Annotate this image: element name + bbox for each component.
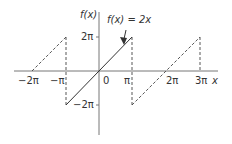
x-tick-label: π <box>124 75 130 86</box>
x-axis-label: x <box>211 75 218 86</box>
function-graph: f(x) = 2x f(x) x −2π −π 0 π 2π 3π 2π −2π <box>0 0 232 144</box>
x-tick-label: 2π <box>166 75 178 86</box>
function-label: f(x) = 2x <box>107 14 151 25</box>
y-tick-label: −2π <box>73 99 94 110</box>
x-tick-label: 0 <box>103 75 109 86</box>
x-tick-label: −π <box>50 75 64 86</box>
y-tick-label: 2π <box>81 31 93 42</box>
x-tick-label: 3π <box>195 75 207 86</box>
x-tick-label: −2π <box>18 75 39 86</box>
y-axis-label: f(x) <box>80 9 97 20</box>
